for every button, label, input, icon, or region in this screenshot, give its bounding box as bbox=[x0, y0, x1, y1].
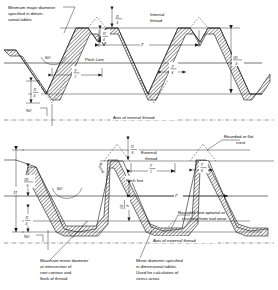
internal-halfpitch-fraction: P 2 bbox=[72, 66, 81, 79]
external-crest-fraction: H 8 bbox=[129, 143, 139, 155]
internal-crest-den: 8 bbox=[117, 21, 119, 25]
external-eighthpitch-fraction: P 8 bbox=[199, 161, 208, 173]
external-minor-dia-spec-line3: Used for calculation of bbox=[136, 270, 179, 275]
internal-crest-fraction: H 8 bbox=[114, 12, 124, 25]
external-minor-dia-spec-line1: Minor diameter specified bbox=[136, 258, 183, 263]
internal-quarterpitch-den: 4 bbox=[172, 71, 174, 75]
external-crest-note-line1: Rounded or flat bbox=[224, 134, 254, 139]
internal-height-fraction: 5H 8 bbox=[232, 53, 244, 66]
external-crest-den: 8 bbox=[132, 151, 134, 155]
external-mid-den: 8 bbox=[126, 205, 130, 207]
external-crest-note-line2: crest bbox=[236, 140, 246, 145]
thread-profile-figure: Minimum major diameter specified in dime… bbox=[0, 0, 278, 290]
internal-axis-label: Axis of internal thread bbox=[113, 115, 155, 120]
external-upper-fraction: 3H 8 bbox=[23, 175, 35, 188]
internal-inner-den: 4 bbox=[103, 38, 105, 42]
internal-crest-num: H bbox=[115, 15, 119, 19]
external-minor-dia-spec-line2: in dimensional tables. bbox=[136, 264, 177, 269]
external-mid-fraction: 5H 8 bbox=[118, 197, 130, 210]
external-root-note-line2: resulting from tool wear bbox=[182, 216, 227, 221]
external-lower-fraction: H 4 bbox=[24, 214, 33, 226]
external-eighthpitch-den: 8 bbox=[201, 169, 203, 173]
external-minor-dia-note-line3: root contour and bbox=[40, 270, 72, 275]
external-flank-angle-label: 60° bbox=[57, 186, 63, 191]
external-minor-dia-note-line4: flank of thread bbox=[40, 276, 68, 281]
internal-rootdepth-num: H bbox=[33, 88, 37, 92]
external-axis-angle-label: 90° bbox=[24, 234, 30, 239]
internal-halfpitch-den: 2 bbox=[75, 75, 77, 79]
internal-inner-fraction: H 4 bbox=[101, 30, 110, 42]
external-crest-num: H bbox=[130, 145, 134, 149]
internal-pitch-dim-label: P bbox=[140, 42, 144, 47]
internal-thread-label-line1: Internal bbox=[150, 12, 164, 17]
external-root-note-line1: Rounded root optional or bbox=[178, 210, 226, 215]
external-upper-num: 3H bbox=[24, 178, 29, 182]
external-lower-den: 4 bbox=[26, 222, 28, 226]
external-H-label: H bbox=[13, 190, 18, 195]
external-pitch-line-label: Pitch line bbox=[126, 178, 144, 183]
external-minor-dia-note-line2: at intersection of bbox=[40, 264, 72, 269]
internal-inner-num: H bbox=[102, 32, 106, 36]
internal-height-num: 5H bbox=[233, 56, 238, 60]
internal-quarterpitch-fraction: P 4 bbox=[169, 62, 178, 75]
external-halfpitch-den: 2 bbox=[150, 170, 152, 174]
external-mid-num: 5H bbox=[120, 204, 124, 209]
internal-pitch-line-label: Pitch Line bbox=[85, 57, 104, 62]
internal-axis-angle-label: 90° bbox=[26, 108, 32, 113]
internal-flank-angle-label: 60° bbox=[45, 55, 51, 60]
internal-height-den: 8 bbox=[236, 62, 238, 66]
internal-major-dia-callout-line3: sional tables bbox=[8, 17, 33, 22]
internal-major-dia-callout-line2: specified in dimen- bbox=[8, 11, 44, 16]
external-halfpitch-fraction: P 2 bbox=[148, 162, 157, 174]
external-minor-dia-spec-line4: stress areas bbox=[136, 276, 160, 281]
external-thread-label-line2: thread bbox=[145, 156, 158, 161]
external-upper-den: 8 bbox=[27, 184, 29, 188]
external-pitch-dim-label: P bbox=[174, 193, 178, 198]
external-lower-num: H bbox=[25, 216, 29, 220]
internal-thread-label-line2: thread bbox=[150, 18, 163, 23]
internal-major-dia-callout-line1: Minimum major diameter bbox=[8, 5, 56, 10]
external-axis-label: Axis of external thread bbox=[153, 238, 196, 243]
internal-rootdepth-den: 4 bbox=[34, 94, 36, 98]
internal-rootdepth-fraction: H 4 bbox=[32, 86, 41, 98]
external-minor-dia-note-line1: Maximum minor diameter bbox=[40, 258, 89, 263]
external-thread-label-line1: External bbox=[141, 150, 157, 155]
